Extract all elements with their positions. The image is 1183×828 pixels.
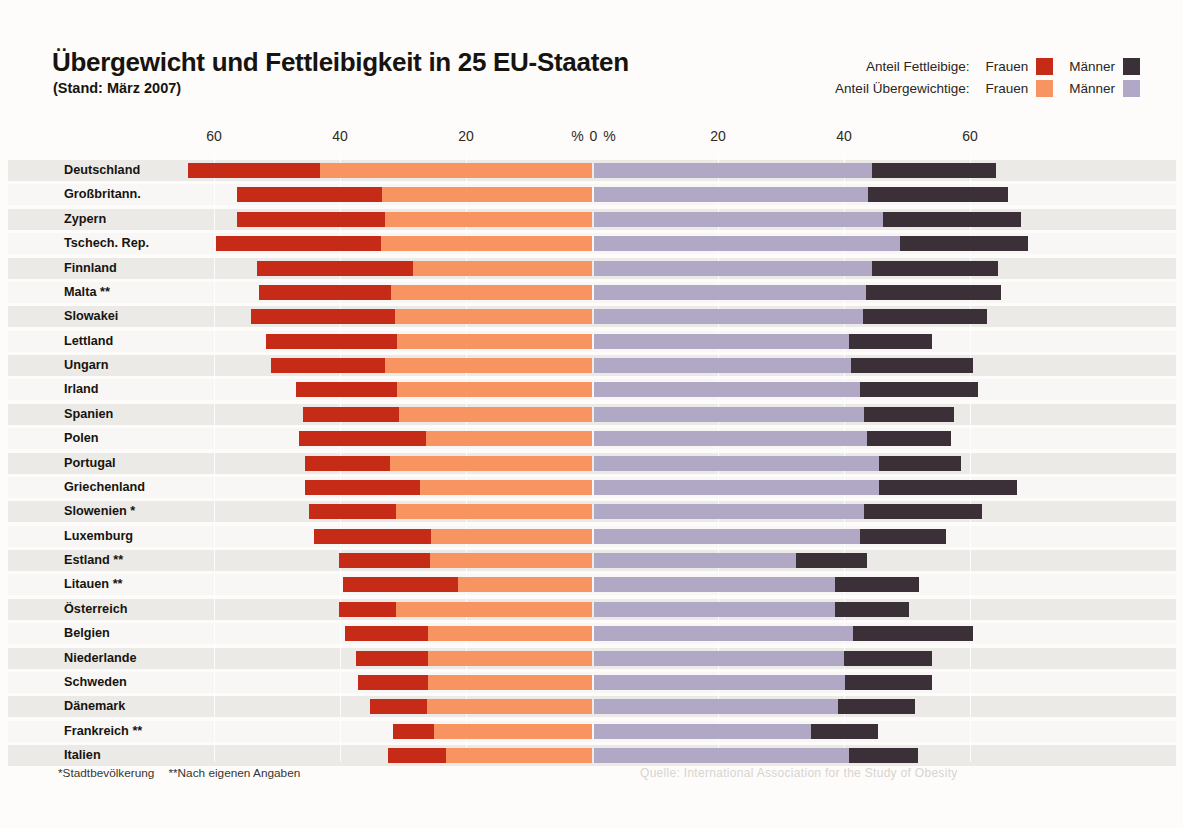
legend-label-obese-men: Männer: [1069, 59, 1115, 74]
bar-obese-women: [216, 236, 381, 251]
row-band: [8, 550, 1176, 571]
row-band: [8, 574, 1176, 595]
x-tick-right-20: 20: [710, 128, 726, 144]
bar-obese-men: [860, 382, 978, 397]
row-band: [8, 160, 1176, 181]
x-tick-left-60: 60: [206, 128, 222, 144]
category-label: Belgien: [64, 627, 110, 640]
legend-swatch-overweight-men: [1123, 80, 1140, 97]
source-credit: Quelle: International Association for th…: [640, 766, 958, 780]
bar-obese-men: [811, 724, 878, 739]
bar-obese-women: [266, 334, 397, 349]
bar-obese-men: [868, 187, 1008, 202]
bar-obese-men: [864, 504, 982, 519]
row-band: [8, 258, 1176, 279]
footnote-two-star: **Nach eigenen Angaben: [168, 766, 300, 780]
bar-obese-men: [879, 456, 961, 471]
category-label: Zypern: [64, 213, 106, 226]
bar-obese-women: [393, 724, 435, 739]
row-band: [8, 306, 1176, 327]
bar-obese-women: [345, 626, 428, 641]
row-band: [8, 526, 1176, 547]
bar-obese-women: [358, 675, 427, 690]
bar-obese-women: [188, 163, 321, 178]
legend-label-obese-women: Frauen: [985, 59, 1028, 74]
footnote-one-star: *Stadtbevölkerung: [58, 766, 154, 780]
bar-obese-men: [844, 651, 932, 666]
bar-obese-men: [796, 553, 867, 568]
infographic-page: Übergewicht und Fettleibigkeit in 25 EU-…: [0, 0, 1183, 828]
category-label: Slowakei: [64, 310, 118, 323]
row-band: [8, 404, 1176, 425]
bar-obese-women: [339, 602, 396, 617]
x-tick-left-20: 20: [458, 128, 474, 144]
bar-obese-women: [303, 407, 399, 422]
page-title: Übergewicht und Fettleibigkeit in 25 EU-…: [52, 47, 629, 78]
bar-obese-men: [879, 480, 1017, 495]
category-label: Italien: [64, 749, 101, 762]
legend-item-overweight-men: Männer: [1069, 80, 1140, 97]
row-band: [8, 501, 1176, 522]
category-label: Großbritann.: [64, 188, 141, 201]
category-label: Litauen **: [64, 578, 123, 591]
bar-obese-women: [237, 187, 382, 202]
bar-obese-women: [339, 553, 430, 568]
category-label: Österreich: [64, 603, 127, 616]
row-band: [8, 428, 1176, 449]
bar-obese-men: [863, 309, 987, 324]
bar-obese-women: [257, 261, 413, 276]
category-label: Dänemark: [64, 700, 125, 713]
legend-item-overweight-women: Frauen: [985, 80, 1053, 97]
bar-obese-women: [309, 504, 396, 519]
bar-obese-men: [853, 626, 973, 641]
legend-item-obese-men: Männer: [1069, 58, 1140, 75]
category-label: Finnland: [64, 262, 117, 275]
legend-swatch-obese-women: [1036, 58, 1053, 75]
row-band: [8, 453, 1176, 474]
row-band: [8, 355, 1176, 376]
bar-obese-women: [296, 382, 397, 397]
bar-obese-women: [259, 285, 391, 300]
category-label: Lettland: [64, 335, 113, 348]
bar-obese-women: [388, 748, 447, 763]
bar-obese-men: [866, 285, 1001, 300]
category-label: Irland: [64, 383, 99, 396]
gridline-left-60: [214, 152, 215, 762]
x-tick-right-40: 40: [836, 128, 852, 144]
bar-obese-men: [851, 358, 973, 373]
category-label: Luxemburg: [64, 530, 133, 543]
category-label: Estland **: [64, 554, 123, 567]
bar-obese-men: [900, 236, 1029, 251]
x-tick-center: % 0 %: [571, 128, 616, 144]
category-label: Portugal: [64, 457, 115, 470]
page-subtitle: (Stand: März 2007): [53, 80, 181, 96]
x-tick-right-60: 60: [962, 128, 978, 144]
x-tick-left-40: 40: [332, 128, 348, 144]
bar-obese-men: [867, 431, 951, 446]
row-band: [8, 379, 1176, 400]
bar-obese-men: [860, 529, 945, 544]
legend-caption-obese: Anteil Fettleibige:: [866, 59, 970, 74]
row-band: [8, 623, 1176, 644]
category-label: Spanien: [64, 408, 113, 421]
footnote-line: *Stadtbevölkerung**Nach eigenen Angaben: [58, 766, 300, 780]
bar-obese-women: [305, 456, 389, 471]
bar-obese-women: [237, 212, 385, 227]
x-axis-ticks: 604020% 0 %204060: [0, 128, 1183, 152]
legend-swatch-overweight-women: [1036, 80, 1053, 97]
legend-label-overweight-men: Männer: [1069, 81, 1115, 96]
category-label: Malta **: [64, 286, 110, 299]
bar-obese-men: [872, 163, 995, 178]
row-band: [8, 721, 1176, 742]
bar-obese-men: [872, 261, 997, 276]
bar-obese-men: [849, 334, 932, 349]
bar-obese-men: [835, 602, 909, 617]
legend-row-obese: Anteil Fettleibige: Frauen Männer: [700, 55, 1140, 77]
legend-swatch-obese-men: [1123, 58, 1140, 75]
category-label: Slowenien *: [64, 505, 135, 518]
chart-legend: Anteil Fettleibige: Frauen Männer Anteil…: [700, 55, 1140, 99]
row-band: [8, 745, 1176, 766]
row-band: [8, 696, 1176, 717]
legend-caption-overweight: Anteil Übergewichtige:: [835, 81, 969, 96]
category-label: Polen: [64, 432, 99, 445]
